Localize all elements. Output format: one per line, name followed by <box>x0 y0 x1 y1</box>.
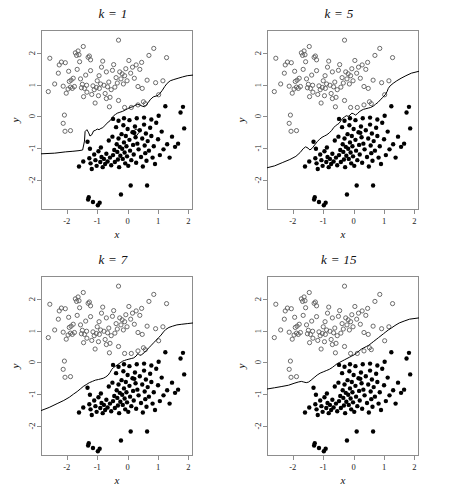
data-point-filled <box>116 382 120 386</box>
data-point-filled <box>94 164 98 168</box>
data-point-open <box>68 129 72 133</box>
data-point-filled <box>132 152 136 156</box>
data-point-filled <box>345 192 349 196</box>
data-point-filled <box>88 393 92 397</box>
data-point-open <box>105 331 109 335</box>
data-point-filled <box>85 140 89 144</box>
data-point-filled <box>94 410 98 414</box>
data-point-open <box>387 79 391 83</box>
data-point-open <box>96 94 100 98</box>
y-tick-mark <box>37 362 41 363</box>
data-point-open <box>358 76 362 80</box>
data-point-open <box>104 316 108 320</box>
data-point-filled <box>345 132 349 136</box>
data-point-filled <box>353 384 357 388</box>
data-point-filled <box>324 406 328 410</box>
data-point-open <box>347 82 351 86</box>
data-point-open <box>88 304 92 308</box>
data-point-filled <box>92 398 96 402</box>
x-tick-mark <box>97 456 98 460</box>
x-tick-label: -2 <box>63 462 70 472</box>
data-point-filled <box>307 159 311 163</box>
data-point-filled <box>149 380 153 384</box>
data-point-open <box>75 313 79 317</box>
data-point-filled <box>105 159 109 163</box>
data-point-open <box>362 84 366 88</box>
data-point-filled <box>333 384 337 388</box>
data-point-open <box>112 309 116 313</box>
data-point-open <box>342 344 346 348</box>
data-point-filled <box>182 126 186 130</box>
data-point-filled <box>122 150 126 154</box>
data-point-filled <box>357 143 361 147</box>
x-tick-mark <box>414 456 415 460</box>
data-point-filled <box>124 390 128 394</box>
data-point-filled <box>382 137 386 141</box>
panel-k-1: k = 1-2-1012210-1-2xy <box>0 0 226 246</box>
x-tick-label: 1 <box>382 216 386 226</box>
data-point-filled <box>367 164 371 168</box>
data-point-open <box>371 324 375 328</box>
data-point-filled <box>407 351 411 355</box>
data-point-filled <box>323 201 327 205</box>
data-point-open <box>63 61 67 65</box>
data-point-open <box>362 349 366 353</box>
data-point-open <box>48 56 52 60</box>
data-point-open <box>105 85 109 89</box>
data-point-filled <box>369 397 373 401</box>
data-point-filled <box>98 160 102 164</box>
data-point-filled <box>404 356 408 360</box>
x-tick-mark <box>158 456 159 460</box>
data-point-open <box>107 80 111 84</box>
y-tick-label: 2 <box>253 297 263 301</box>
data-point-open <box>338 63 342 67</box>
data-point-filled <box>358 152 362 156</box>
data-point-open <box>110 314 114 318</box>
data-point-open <box>56 71 60 75</box>
data-point-open <box>152 46 156 50</box>
y-tick-label: 1 <box>27 82 37 86</box>
data-point-open <box>136 330 140 334</box>
data-point-open <box>330 316 334 320</box>
data-point-filled <box>128 394 132 398</box>
data-point-open <box>333 80 337 84</box>
data-point-open <box>364 67 368 71</box>
data-point-filled <box>384 153 388 157</box>
data-point-filled <box>142 115 146 119</box>
data-point-open <box>62 359 66 363</box>
panel-title: k = 15 <box>226 252 452 268</box>
y-tick-label: 1 <box>253 328 263 332</box>
data-point-filled <box>127 138 131 142</box>
data-point-open <box>331 331 335 335</box>
y-tick-mark <box>263 53 267 54</box>
data-point-filled <box>375 363 379 367</box>
data-point-open <box>355 317 359 321</box>
data-point-open <box>366 332 370 336</box>
data-point-filled <box>316 167 320 171</box>
data-point-open <box>85 83 89 87</box>
x-tick-label: 2 <box>412 462 416 472</box>
data-point-filled <box>379 162 383 166</box>
data-point-open <box>322 340 326 344</box>
data-point-open <box>340 322 344 326</box>
data-point-open <box>339 331 343 335</box>
x-axis-label: x <box>41 474 193 486</box>
data-point-open <box>110 68 114 72</box>
data-point-filled <box>303 410 307 414</box>
data-point-open <box>63 375 67 379</box>
x-tick-label: 2 <box>412 216 416 226</box>
data-point-open <box>383 339 387 343</box>
data-point-open <box>134 309 138 313</box>
data-point-open <box>88 58 92 62</box>
data-point-filled <box>382 383 386 387</box>
data-point-open <box>61 367 65 371</box>
data-point-filled <box>143 151 147 155</box>
data-point-open <box>112 63 116 67</box>
data-point-open <box>116 98 120 102</box>
x-tick-label: 0 <box>351 216 355 226</box>
data-point-filled <box>140 136 144 140</box>
data-point-filled <box>93 158 97 162</box>
data-point-filled <box>91 200 95 204</box>
data-point-filled <box>170 134 174 138</box>
data-point-filled <box>97 447 101 451</box>
